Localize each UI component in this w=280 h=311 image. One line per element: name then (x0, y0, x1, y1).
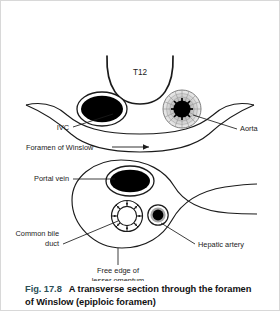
figure-panel: T12 (0, 0, 280, 311)
label-common-bile-duct-line-1: Common bile (15, 229, 59, 238)
label-foramen-of-winslow: Foramen of Winslow (26, 143, 94, 152)
label-t12: T12 (133, 68, 148, 77)
lesser-omentum-group: Portal vein Common bile duct Hepatic art… (15, 160, 257, 281)
portal-vein-vessel (106, 166, 154, 196)
label-aorta: Aorta (240, 124, 259, 133)
foramen-arrow-head (143, 144, 149, 150)
hepatic-artery-vessel (148, 205, 168, 225)
aorta-vessel (161, 88, 203, 130)
diagram-canvas: T12 (1, 1, 279, 281)
lesser-omentum-outline-lower (72, 160, 257, 248)
common-bile-duct-vessel (112, 201, 143, 232)
caption-first-line: Fig. 17.8A transverse section through th… (25, 283, 279, 296)
label-hepatic-artery: Hepatic artery (198, 240, 244, 249)
anatomical-diagram: T12 (1, 1, 279, 281)
label-ivc: IVC (57, 123, 70, 132)
label-lesser-omentum-line-1: Free edge of (97, 266, 140, 275)
label-lesser-omentum-line-2: lesser omentum (92, 276, 145, 282)
label-portal-vein: Portal vein (34, 174, 69, 183)
foramen-of-winslow-annotation: Foramen of Winslow (26, 143, 149, 152)
figure-caption: Fig. 17.8A transverse section through th… (1, 283, 279, 311)
figure-number: Fig. 17.8 (25, 284, 62, 294)
ivc-vessel (77, 92, 127, 126)
hepatic-artery-leader-line (161, 223, 195, 244)
figure-title-line-2: of Winslow (epiploic foramen) (25, 296, 279, 309)
figure-title-line-1: A transverse section through the foramen (69, 284, 252, 294)
upper-section-group: T12 (26, 56, 259, 152)
label-common-bile-duct-line-2: duct (45, 239, 59, 248)
